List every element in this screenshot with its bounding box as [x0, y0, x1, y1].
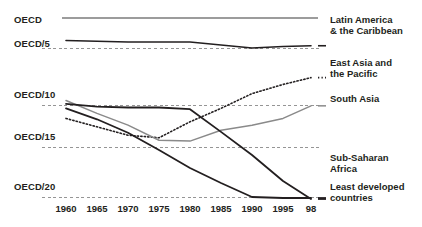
series-label-line: countries [330, 192, 404, 203]
x-axis-tick-label: 98 [306, 203, 317, 214]
y-axis-tick-label: OECD/15 [14, 131, 55, 142]
series-label-line: & the Caribbean [330, 25, 403, 36]
series-line-least-developed-countries [66, 108, 311, 198]
series-label: Sub-SaharanAfrica [330, 152, 389, 174]
x-axis-tick-label: 1980 [179, 203, 200, 214]
series-label-line: East Asia and [330, 57, 392, 68]
x-axis-tick-label: 1985 [210, 203, 231, 214]
series-label: Least developedcountries [330, 181, 404, 203]
series-line-sub-saharan-africa [66, 104, 311, 199]
x-axis-tick-label: 1965 [86, 203, 107, 214]
series-label-line: Latin America [330, 14, 403, 25]
x-axis-tick-label: 1995 [272, 203, 293, 214]
series-label: Latin America& the Caribbean [330, 14, 403, 36]
y-axis-tick-label: OECD/10 [14, 89, 55, 100]
series-label: East Asia andthe Pacific [330, 57, 392, 79]
x-axis-tick-label: 1990 [241, 203, 262, 214]
series-label: South Asia [330, 93, 379, 104]
series-line-latin-america-the-caribbean [66, 41, 311, 49]
chart-container: OECDOECD/5OECD/10OECD/15OECD/20 19601965… [0, 0, 422, 227]
y-axis-tick-label: OECD/5 [14, 38, 50, 49]
y-axis-tick-label: OECD/20 [14, 181, 55, 192]
series-label-line: Least developed [330, 181, 404, 192]
series-label-line: the Pacific [330, 68, 392, 79]
y-axis-tick-label: OECD [14, 14, 42, 25]
x-axis-tick-label: 1960 [55, 203, 76, 214]
x-axis-tick-label: 1970 [117, 203, 138, 214]
series-label-line: Africa [330, 163, 389, 174]
series-label-line: South Asia [330, 93, 379, 104]
x-axis-tick-label: 1975 [148, 203, 169, 214]
series-label-line: Sub-Saharan [330, 152, 389, 163]
